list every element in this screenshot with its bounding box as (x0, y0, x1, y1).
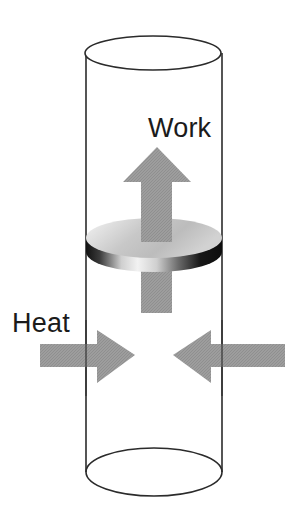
work-arrow-shaft (141, 180, 172, 242)
cylinder-top-ellipse (85, 36, 221, 70)
heat-left-arrow-shaft (40, 344, 98, 367)
diagram-canvas: Work Heat (0, 0, 289, 522)
heat-label: Heat (12, 308, 70, 338)
thermodynamics-diagram: Work Heat (0, 0, 289, 522)
work-label: Work (148, 113, 212, 143)
